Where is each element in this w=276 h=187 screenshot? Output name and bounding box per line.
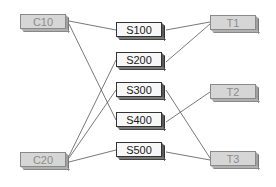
node-c20: C20 <box>20 152 66 167</box>
edge-s200-t1 <box>166 24 210 62</box>
edge-s500-t3 <box>166 152 210 160</box>
node-label: T3 <box>210 151 256 166</box>
node-s100: S100 <box>116 22 162 37</box>
node-c10: C10 <box>20 14 66 29</box>
edge-s100-t1 <box>166 22 210 30</box>
edge-c20-s500 <box>69 150 116 162</box>
edge-c20-s300 <box>69 90 116 158</box>
node-s500: S500 <box>116 142 162 157</box>
edge-c20-s200 <box>69 60 116 156</box>
node-s400: S400 <box>116 112 162 127</box>
node-label: T2 <box>210 84 256 99</box>
node-t2: T2 <box>210 84 256 99</box>
node-label: T1 <box>210 15 256 30</box>
edge-s300-t3 <box>166 90 210 158</box>
node-label: S200 <box>116 52 162 67</box>
node-label: C10 <box>20 14 66 29</box>
node-label: C20 <box>20 152 66 167</box>
node-label: S300 <box>116 82 162 97</box>
node-s200: S200 <box>116 52 162 67</box>
node-t3: T3 <box>210 151 256 166</box>
edge-c10-s400 <box>69 24 116 120</box>
edge-c10-s100 <box>69 21 116 30</box>
node-label: S400 <box>116 112 162 127</box>
node-label: S100 <box>116 22 162 37</box>
node-s300: S300 <box>116 82 162 97</box>
edge-s400-t2 <box>166 92 210 122</box>
node-label: S500 <box>116 142 162 157</box>
node-t1: T1 <box>210 15 256 30</box>
